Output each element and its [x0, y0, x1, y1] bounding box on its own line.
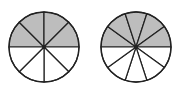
fraction-circles-diagram [0, 0, 177, 98]
center-point [42, 45, 46, 49]
center-point [134, 45, 138, 49]
right-circle [101, 12, 171, 82]
left-circle [9, 12, 79, 82]
